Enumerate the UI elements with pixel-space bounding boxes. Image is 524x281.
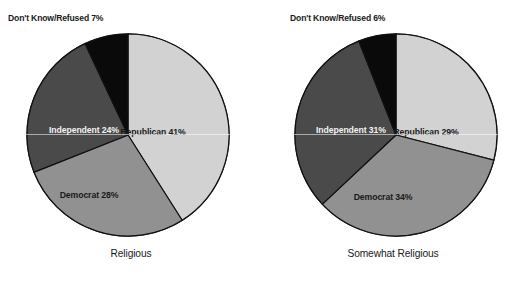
pie-somewhat-religious: Republican 29%Democrat 34%Independent 31… <box>293 32 499 238</box>
pie-slice-label-republican: Republican 41% <box>120 127 186 137</box>
pie-slice-label-republican: Republican 29% <box>393 127 459 137</box>
pie-slice-label-independent: Independent 24% <box>49 125 119 135</box>
pie-somewhat-religious-svg: Republican 29%Democrat 34%Independent 31… <box>293 32 499 238</box>
pie-panel-somewhat-religious: Don't Know/Refused 6% Republican 29%Demo… <box>262 0 524 281</box>
pie-religious: Republican 41%Democrat 28%Independent 24… <box>25 32 231 238</box>
pie-religious-svg: Republican 41%Democrat 28%Independent 24… <box>25 32 231 238</box>
pie-slice-label-democrat: Democrat 28% <box>60 190 119 200</box>
pie-caption-religious: Religious <box>0 248 262 259</box>
dont-know-callout-label: Don't Know/Refused 6% <box>290 13 385 24</box>
pie-slice-label-democrat: Democrat 34% <box>354 192 413 202</box>
pie-chart-figure: Don't Know/Refused 7% Republican 41%Demo… <box>0 0 524 281</box>
pie-slice-label-independent: Independent 31% <box>316 125 386 135</box>
pie-caption-somewhat-religious: Somewhat Religious <box>262 248 524 259</box>
pie-panel-religious: Don't Know/Refused 7% Republican 41%Demo… <box>0 0 262 281</box>
dont-know-callout-label: Don't Know/Refused 7% <box>8 13 103 24</box>
